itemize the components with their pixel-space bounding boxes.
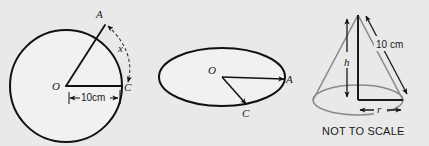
ellipse-point-label-C: C [242, 107, 250, 119]
circle-radius-label: 10cm [81, 92, 105, 103]
diagram-canvas: 10cm O A C x O A C [0, 0, 429, 146]
arc-label-x: x [117, 42, 123, 54]
cone-height-label: h [344, 56, 350, 68]
figure-base-ellipse: O A C [159, 48, 293, 119]
figure-cone: h 10 cm r NOT TO SCALE [313, 15, 412, 137]
geometry-figures: 10cm O A C x O A C [0, 0, 429, 146]
cone-radius-label: r [377, 103, 382, 115]
ellipse-point-label-A: A [285, 73, 293, 85]
cone-slant-label: 10 cm [376, 39, 403, 50]
ellipse-center-label-O: O [208, 64, 216, 76]
circle-point-label-A: A [95, 8, 103, 20]
not-to-scale-note: NOT TO SCALE [322, 125, 404, 137]
circle-point-label-C: C [124, 81, 132, 93]
cone-slant-dimension [366, 16, 407, 94]
figure-sector-circle: 10cm O A C x [10, 8, 132, 142]
circle-center-label-O: O [52, 80, 60, 92]
